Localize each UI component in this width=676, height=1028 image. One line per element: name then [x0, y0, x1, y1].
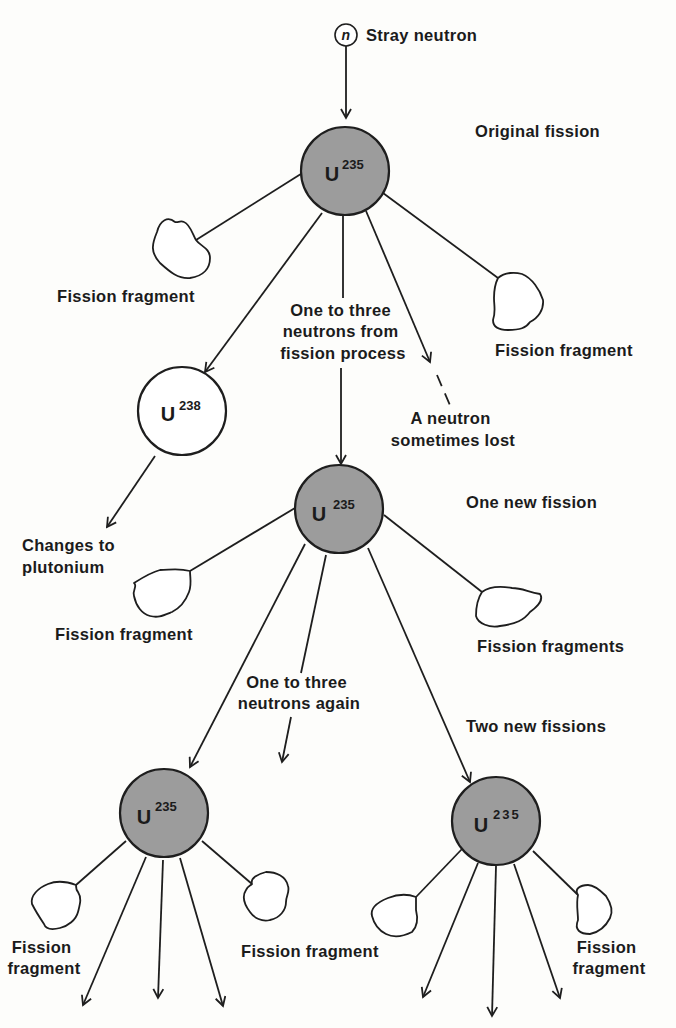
line-to-fragment-2-right	[384, 515, 482, 592]
fragment-2-left-label: Fission fragment	[55, 625, 193, 643]
line-neutrons-again	[301, 555, 326, 673]
neutron-lost-label: A neutron sometimes lost	[391, 409, 516, 449]
fragment-2-right-label: Fission fragments	[477, 637, 624, 655]
stray-neutron-label: Stray neutron	[366, 26, 477, 44]
arrow-3r-3	[514, 864, 560, 998]
fragment-1-right-label: Fission fragment	[495, 341, 633, 359]
neutron-symbol: n	[342, 27, 351, 43]
mass-number: 235	[493, 807, 521, 822]
line-to-fragment-1-left	[196, 172, 304, 240]
line-to-fragment-3-left-left	[76, 841, 126, 885]
element-symbol: U	[137, 806, 151, 828]
arrow-3l-2	[158, 860, 163, 998]
stage-label-original: Original fission	[475, 122, 600, 140]
nucleus-u238: U 238	[138, 367, 226, 455]
nucleus-u235-third-left: U 235	[120, 769, 208, 857]
arrow-3l-3	[180, 858, 223, 1006]
mass-number: 238	[179, 398, 201, 413]
fragment-1-left-label: Fission fragment	[57, 287, 195, 305]
element-symbol: U	[312, 503, 326, 525]
line-to-fragment-3-left-right	[202, 841, 252, 884]
fission-fragment-3-right-left	[372, 895, 418, 936]
mass-number: 235	[333, 497, 355, 512]
fission-fragment-1-right	[493, 273, 543, 330]
line-to-fragment-2-left	[190, 508, 295, 571]
fission-fragment-3-left-left	[32, 882, 81, 929]
line-to-fragment-3-right-right	[533, 851, 578, 895]
element-symbol: U	[161, 403, 175, 425]
fission-fragment-1-left	[153, 219, 210, 278]
nucleus-u235-original: U 235	[301, 127, 389, 215]
arrow-to-plutonium	[107, 456, 155, 527]
neutrons-from-fission-label: One to three neutrons from fission proce…	[280, 301, 406, 362]
arrow-3r-1	[423, 863, 478, 997]
stage-label-one-new: One new fission	[466, 493, 597, 511]
mass-number: 235	[342, 157, 364, 172]
element-symbol: U	[474, 814, 488, 836]
fission-fragment-2-left	[134, 569, 191, 616]
neutron-lost-dashes	[437, 375, 452, 410]
fission-fragment-3-mid	[244, 872, 289, 921]
plutonium-label: Changes to plutonium	[22, 536, 120, 576]
fragment-3-mid-label: Fission fragment	[241, 942, 379, 960]
line-to-fragment-1-right	[383, 193, 498, 278]
arrow-to-u235-third-right	[368, 548, 470, 782]
fission-fragment-2-right	[476, 587, 541, 627]
neutrons-again-label: One to three neutrons again	[238, 673, 360, 712]
fragment-3-left-left-label: Fission fragment	[8, 938, 81, 977]
stray-neutron: n Stray neutron	[335, 24, 477, 46]
arrow-3r-2	[492, 866, 496, 1016]
line-to-fragment-3-right-left	[416, 849, 462, 897]
stage-label-two-new: Two new fissions	[466, 717, 606, 735]
element-symbol: U	[325, 163, 339, 185]
arrow-neutrons-again	[282, 717, 291, 762]
mass-number: 235	[155, 799, 177, 814]
fragment-3-right-right-label: Fission fragment	[573, 938, 646, 977]
fission-fragment-3-right-right	[577, 885, 612, 934]
arrow-3l-1	[83, 857, 146, 1005]
nucleus-u235-second: U 235	[295, 465, 383, 553]
nucleus-u235-third-right: U 235	[452, 777, 540, 865]
chain-reaction-diagram: n Stray neutron Original fission U 235 F…	[0, 0, 676, 1028]
